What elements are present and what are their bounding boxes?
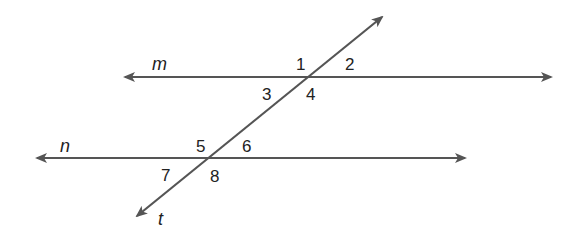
angle-label-5: 5 xyxy=(196,137,205,156)
angle-label-3: 3 xyxy=(262,85,271,104)
label-line-t: t xyxy=(158,209,164,229)
angle-label-1: 1 xyxy=(296,55,305,74)
angle-label-8: 8 xyxy=(210,167,219,186)
label-line-n: n xyxy=(60,136,70,156)
angle-label-7: 7 xyxy=(161,166,170,185)
angle-label-2: 2 xyxy=(345,55,354,74)
diagram-canvas: m n t 1 2 3 4 5 6 7 8 xyxy=(0,0,578,239)
angle-label-6: 6 xyxy=(242,137,251,156)
line-t xyxy=(137,17,382,216)
angle-label-4: 4 xyxy=(306,85,315,104)
label-line-m: m xyxy=(152,54,167,74)
